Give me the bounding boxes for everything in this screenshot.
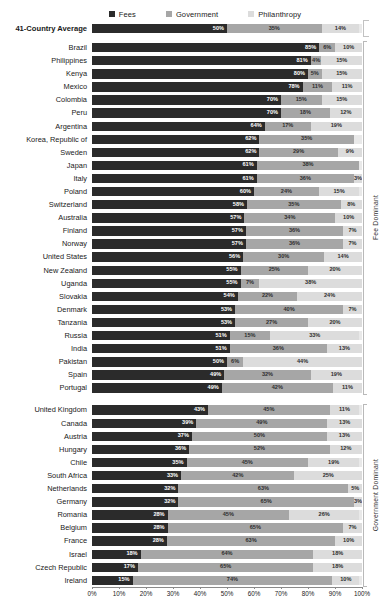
bar-segment-phil: 18% xyxy=(313,563,362,572)
chart-row: Russia51%15%33% xyxy=(0,329,390,342)
stacked-bar: 70%18%12% xyxy=(92,108,362,117)
bar-segment-phil: 7% xyxy=(343,305,362,314)
bar-value-gov: 17% xyxy=(282,123,293,129)
stacked-bar: 57%36%7% xyxy=(92,226,362,235)
stacked-bar: 55%7%38% xyxy=(92,279,362,288)
stacked-bar: 53%27%20% xyxy=(92,318,362,327)
row-label: Switzerland xyxy=(0,201,92,208)
bar-segment-gov: 65% xyxy=(178,497,354,506)
bar-segment-gov: 5% xyxy=(308,69,322,78)
chart-row: Portugal49%42%11% xyxy=(0,382,390,395)
chart-row: Germany32%65%3% xyxy=(0,495,390,508)
bar-segment-gov: 4% xyxy=(311,56,322,65)
bar-value-fees: 85% xyxy=(305,45,316,51)
bar-value-phil: 26% xyxy=(319,512,330,518)
bar-segment-fees: 43% xyxy=(92,405,208,414)
chart-row: Pakistan50%6%44% xyxy=(0,355,390,368)
tick-label: 10% xyxy=(113,587,126,597)
bar-value-gov: 15% xyxy=(296,97,307,103)
bar-value-gov: 42% xyxy=(232,473,243,479)
bar-value-gov: 40% xyxy=(283,307,294,313)
stacked-bar: 70%15%15% xyxy=(92,95,362,104)
bar-segment-fees: 28% xyxy=(92,510,168,519)
bar-value-gov: 64% xyxy=(221,551,232,557)
bar-segment-gov: 36% xyxy=(246,239,343,248)
stacked-bar: 50%35%14% xyxy=(92,24,362,33)
stacked-bar: 62%35% xyxy=(92,135,362,144)
bar-value-phil: 7% xyxy=(348,307,356,313)
chart-row: Peru70%18%12% xyxy=(0,107,390,120)
bar-value-gov: 7% xyxy=(246,281,254,287)
chart-row: Japan61%38% xyxy=(0,159,390,172)
bar-segment-fees: 56% xyxy=(92,252,243,261)
bar-segment-phil: 11% xyxy=(330,405,360,414)
stacked-bar: 61%38% xyxy=(92,161,362,170)
bar-value-gov: 15% xyxy=(244,333,255,339)
bar-segment-gov: 45% xyxy=(208,405,330,414)
bar-value-fees: 50% xyxy=(213,359,224,365)
bar-value-fees: 51% xyxy=(215,346,226,352)
row-label: Russia xyxy=(0,332,92,339)
bar-value-gov: 36% xyxy=(289,241,300,247)
chart-row: South Africa33%42%25% xyxy=(0,469,390,482)
chart-row: Norway57%36%7% xyxy=(0,238,390,251)
bar-segment-gov: 36% xyxy=(230,344,327,353)
row-label: Argentina xyxy=(0,123,92,130)
tick-label: 60% xyxy=(248,587,261,597)
chart-row: United States56%30%14% xyxy=(0,251,390,264)
bar-segment-phil: 3% xyxy=(354,174,362,183)
bar-value-fees: 33% xyxy=(167,473,178,479)
bar-value-fees: 55% xyxy=(226,267,237,273)
chart-row: Denmark53%40%7% xyxy=(0,303,390,316)
stacked-bar-chart: Fees Government Philanthropy 41-Country … xyxy=(0,0,390,609)
bar-segment-gov: 36% xyxy=(246,226,343,235)
bar-value-phil: 3% xyxy=(354,499,362,505)
bar-segment-phil: 15% xyxy=(319,187,360,196)
bar-segment-fees: 33% xyxy=(92,471,181,480)
stacked-bar: 58%35%8% xyxy=(92,200,362,209)
bar-segment-gov: 22% xyxy=(238,292,297,301)
chart-row: 41-Country Average50%35%14% xyxy=(0,22,390,35)
bar-value-fees: 55% xyxy=(226,281,237,287)
bar-segment-gov: 42% xyxy=(181,471,294,480)
bar-value-phil: 24% xyxy=(324,294,335,300)
stacked-bar: 33%42%25% xyxy=(92,471,362,480)
bar-value-fees: 54% xyxy=(224,294,235,300)
stacked-bar: 64%17%19% xyxy=(92,122,362,131)
row-label: Israel xyxy=(0,551,92,558)
bar-value-fees: 39% xyxy=(182,420,193,426)
bar-value-gov: 35% xyxy=(269,26,280,32)
bar-value-fees: 70% xyxy=(267,110,278,116)
bar-value-gov: 36% xyxy=(300,176,311,182)
bar-value-gov: 38% xyxy=(302,163,313,169)
bar-value-gov: 24% xyxy=(281,189,292,195)
bar-value-phil: 10% xyxy=(340,578,351,584)
bar-value-phil: 15% xyxy=(336,71,347,77)
row-label: Austria xyxy=(0,433,92,440)
bar-value-phil: 18% xyxy=(332,551,343,557)
row-label: Brazil xyxy=(0,44,92,51)
bar-segment-gov: 32% xyxy=(224,370,310,379)
bar-segment-gov: 15% xyxy=(230,331,271,340)
chart-row: Tanzania53%27%20% xyxy=(0,316,390,329)
bar-segment-phil: 7% xyxy=(343,226,362,235)
bar-segment-phil: 12% xyxy=(330,445,362,454)
bar-value-phil: 25% xyxy=(323,473,334,479)
stacked-bar: 60%24%15% xyxy=(92,187,362,196)
bar-value-phil: 13% xyxy=(339,346,350,352)
bar-value-fees: 81% xyxy=(296,58,307,64)
row-label: Hungary xyxy=(0,446,92,453)
chart-row: Argentina64%17%19% xyxy=(0,120,390,133)
chart-row: Netherlands32%63%5% xyxy=(0,482,390,495)
bar-value-gov: 35% xyxy=(288,202,299,208)
bar-value-phil: 19% xyxy=(331,372,342,378)
group-bracket-government xyxy=(363,404,367,587)
bar-value-gov: 6% xyxy=(323,45,331,51)
chart-row: France28%63%10% xyxy=(0,535,390,548)
bar-segment-fees: 62% xyxy=(92,135,259,144)
chart-row: Kenya80%5%15% xyxy=(0,67,390,80)
stacked-bar: 28%63%10% xyxy=(92,536,362,545)
stacked-bar: 78%11%11% xyxy=(92,82,362,91)
row-label: Romania xyxy=(0,511,92,518)
bar-value-fees: 80% xyxy=(294,71,305,77)
